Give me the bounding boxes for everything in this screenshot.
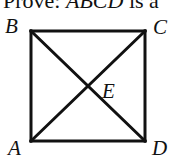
vertex-label-d: D [152,138,167,159]
intersection-label-e: E [102,81,115,102]
vertex-label-a: A [8,138,21,159]
vertex-label-c: C [153,17,167,38]
vertex-label-b: B [5,16,18,37]
square-diagram [0,0,173,160]
square-edges-and-diagonals [31,31,145,141]
